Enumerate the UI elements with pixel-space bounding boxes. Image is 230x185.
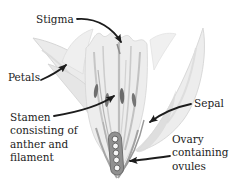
ovule-shape [112, 136, 118, 142]
ovary-shape [108, 132, 124, 176]
flower-anatomy-diagram: Stigma Petals Stamen consisting of anthe… [0, 0, 230, 185]
ovary-arrow [130, 156, 170, 161]
ovule-shape [113, 150, 119, 156]
stamen-label: Stamen consisting of anther and filament [10, 111, 78, 164]
ovule-shape [112, 143, 118, 149]
stamen-label-line3: anther and [10, 138, 78, 151]
sepal-label: Sepal [194, 97, 224, 109]
ovule-shape [113, 157, 119, 163]
stamen-label-line2: consisting of [10, 124, 78, 137]
ovary-label-line1: Ovary [172, 133, 228, 146]
stamen-label-line1: Stamen [10, 111, 78, 124]
ovule-shape [114, 165, 120, 171]
ovary-label-line3: ovules [172, 160, 228, 173]
ovary-label-line2: containing [172, 146, 228, 159]
ovary-label: Ovary containing ovules [172, 133, 228, 173]
stigma-label: Stigma [36, 13, 74, 25]
petals-label: Petals [8, 71, 40, 83]
stamen-label-line4: filament [10, 151, 78, 164]
